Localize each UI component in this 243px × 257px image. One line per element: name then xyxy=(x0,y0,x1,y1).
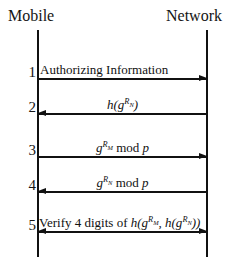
message-label: Authorizing Information xyxy=(40,63,168,77)
message-arrow-line xyxy=(38,78,207,80)
message-index: 3 xyxy=(16,143,36,158)
message-arrow-line xyxy=(38,191,207,193)
message-arrow-line xyxy=(38,231,207,233)
message-index: 5 xyxy=(16,218,36,233)
message-index: 4 xyxy=(16,178,36,193)
message-label: gRM mod p xyxy=(38,141,207,155)
actor-label-mobile: Mobile xyxy=(8,8,54,24)
message-label: gRN mod p xyxy=(38,176,207,190)
message-arrow-line xyxy=(38,156,207,158)
message-label: Verify 4 digits of h(gRM, h(gRN)) xyxy=(39,216,200,230)
message-index: 1 xyxy=(16,65,36,80)
sequence-diagram: Mobile Network 1 Authorizing Information… xyxy=(0,0,243,257)
actor-label-network: Network xyxy=(166,8,222,24)
message-label: h(gRN) xyxy=(38,98,207,112)
message-arrow-line xyxy=(38,113,207,115)
arrow-head-right-icon xyxy=(199,75,207,81)
message-index: 2 xyxy=(16,100,36,115)
